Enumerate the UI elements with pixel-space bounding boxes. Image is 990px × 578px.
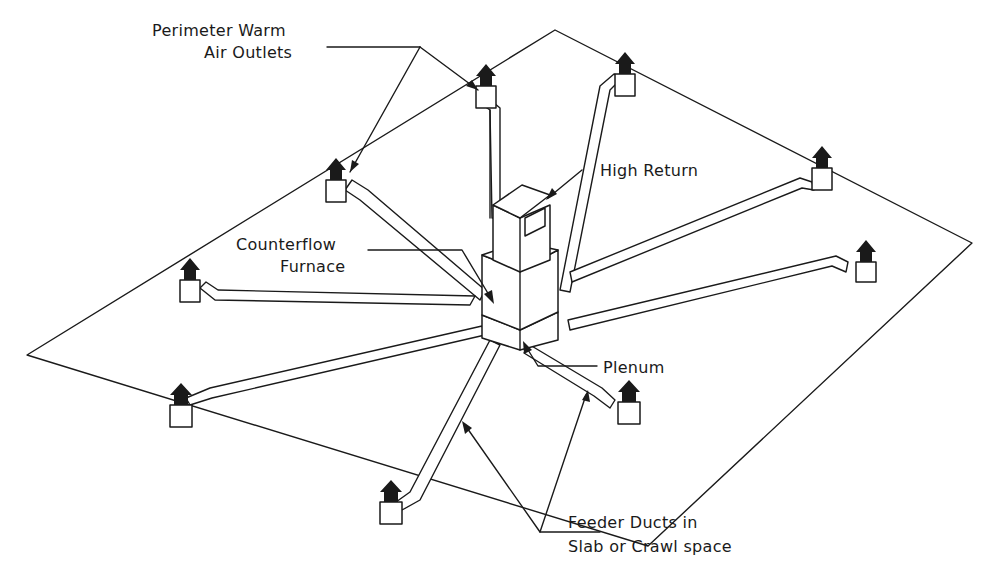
outlet-bottom-right <box>618 380 640 424</box>
label-furnace-line1: Counterflow <box>236 235 336 254</box>
outlet-bottom-left <box>170 383 192 427</box>
label-perimeter-outlets-line2: Air Outlets <box>204 43 292 62</box>
outlet-top-right <box>615 52 635 96</box>
label-furnace-line2: Furnace <box>280 257 345 276</box>
high-return-cabinet <box>493 185 550 272</box>
hvac-diagram: Perimeter Warm Air Outlets High Return C… <box>0 0 990 578</box>
outlet-bottom <box>380 480 402 524</box>
outlet-upper-left <box>326 158 346 202</box>
outlet-right <box>856 240 876 282</box>
label-perimeter-outlets-line1: Perimeter Warm <box>152 21 286 40</box>
label-feeder-ducts-line1: Feeder Ducts in <box>568 513 698 532</box>
outlet-top-center <box>476 64 496 108</box>
outlet-upper-right <box>812 146 832 190</box>
label-plenum: Plenum <box>603 358 665 377</box>
label-high-return: High Return <box>600 161 698 180</box>
counterflow-furnace <box>482 185 558 350</box>
label-feeder-ducts-line2: Slab or Crawl space <box>568 537 732 556</box>
labels: Perimeter Warm Air Outlets High Return C… <box>152 21 732 556</box>
diagram-canvas: Perimeter Warm Air Outlets High Return C… <box>0 0 990 578</box>
outlet-left <box>180 258 200 302</box>
